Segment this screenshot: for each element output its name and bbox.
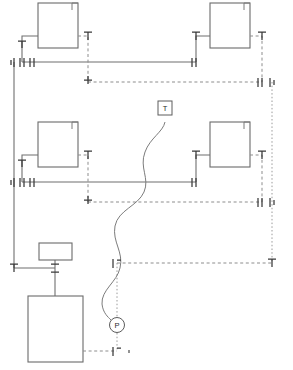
pipe-tr-inlet-drop	[196, 36, 210, 62]
pipe-ml-inlet-drop	[22, 155, 38, 182]
valve-mr-outlet[interactable]	[258, 151, 266, 159]
temperature-bubble-label: T	[163, 104, 168, 113]
temperature-indicator[interactable]: T	[158, 101, 172, 115]
signal-lines-group	[78, 36, 272, 353]
valve-ml-inlet[interactable]	[18, 160, 26, 167]
signal-mr-outlet	[250, 155, 262, 202]
valve-mr-corner-a[interactable]	[258, 198, 262, 207]
valve-tr-corner-a[interactable]	[258, 78, 262, 87]
valve-tl-header-a[interactable]	[11, 58, 14, 67]
pipe-mr-inlet-drop	[196, 155, 210, 182]
pressure-bubble-label: P	[114, 321, 119, 330]
signal-tr-outlet	[250, 36, 262, 82]
pid-drawing-surface: T P	[0, 0, 293, 370]
pressure-indicator[interactable]: P	[110, 318, 125, 333]
capillary-temperature	[102, 122, 165, 320]
valve-mr-corner-b[interactable]	[270, 198, 274, 207]
pid-diagram-canvas: T P	[0, 0, 293, 370]
valve-ml-drop[interactable]	[84, 196, 92, 204]
valve-tr-outlet[interactable]	[258, 32, 266, 40]
signal-ml-outlet	[78, 155, 88, 202]
vessel-bottom-main[interactable]	[28, 296, 83, 362]
equipment-small-box[interactable]	[39, 243, 72, 260]
capillary-group	[102, 122, 165, 320]
valve-tl-drop[interactable]	[84, 76, 92, 84]
valve-ml-header-a[interactable]	[11, 178, 14, 187]
signal-tl-outlet	[78, 36, 88, 82]
valve-tl-inlet[interactable]	[18, 41, 26, 48]
